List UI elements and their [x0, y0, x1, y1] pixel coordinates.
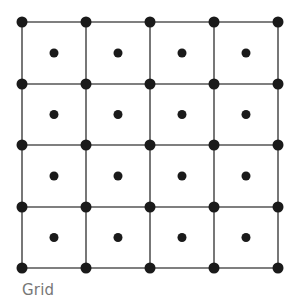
- corner-node: [209, 79, 220, 90]
- corner-node: [145, 140, 156, 151]
- center-node: [50, 110, 59, 119]
- corner-node: [17, 263, 28, 274]
- corner-node: [209, 263, 220, 274]
- center-node: [178, 110, 187, 119]
- corner-node: [81, 17, 92, 28]
- center-node: [242, 172, 251, 181]
- center-node: [114, 233, 123, 242]
- corner-node: [145, 263, 156, 274]
- grid-diagram: [0, 0, 297, 306]
- corner-node: [209, 140, 220, 151]
- corner-node: [17, 202, 28, 213]
- corner-node: [81, 140, 92, 151]
- center-node: [178, 49, 187, 58]
- corner-node: [273, 140, 284, 151]
- corner-node: [145, 202, 156, 213]
- corner-node: [17, 79, 28, 90]
- center-node: [114, 110, 123, 119]
- diagram-caption: Grid: [22, 281, 54, 299]
- center-node: [50, 233, 59, 242]
- center-node: [50, 49, 59, 58]
- corner-node: [145, 17, 156, 28]
- center-node: [242, 233, 251, 242]
- center-node: [114, 49, 123, 58]
- center-node: [114, 172, 123, 181]
- corner-node: [209, 202, 220, 213]
- center-node: [178, 233, 187, 242]
- corner-node: [81, 79, 92, 90]
- corner-node: [273, 79, 284, 90]
- corner-node: [145, 79, 156, 90]
- corner-node: [273, 263, 284, 274]
- corner-node: [17, 17, 28, 28]
- center-node: [50, 172, 59, 181]
- center-node: [178, 172, 187, 181]
- corner-node: [209, 17, 220, 28]
- corner-node: [273, 17, 284, 28]
- corner-node: [17, 140, 28, 151]
- center-node: [242, 110, 251, 119]
- corner-node: [273, 202, 284, 213]
- center-node: [242, 49, 251, 58]
- corner-node: [81, 202, 92, 213]
- corner-node: [81, 263, 92, 274]
